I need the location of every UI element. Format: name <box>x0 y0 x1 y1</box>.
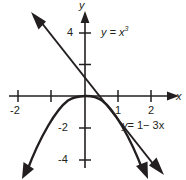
y-axis-label: y <box>79 0 85 11</box>
x-tick-label--2: -2 <box>10 105 20 116</box>
x-axis-label: x <box>176 91 182 102</box>
curve-x-cubed-end-arrowhead <box>136 162 148 180</box>
coordinate-plane-svg <box>0 0 186 179</box>
y-tick-label--2: -2 <box>58 122 68 133</box>
line-1-3x-path <box>41 22 154 165</box>
x-tick-label-1: 1 <box>115 105 121 116</box>
line-series-1-3x <box>41 22 154 165</box>
curve-x-cubed-start-arrowhead <box>22 162 34 179</box>
cubic-equation-label: y = x3 <box>101 25 128 38</box>
graph-figure: x y -2 1 2 4 -2 -4 y = x3 y= 1− 3x <box>0 0 186 179</box>
cubic-equation-text: y = x <box>101 26 125 38</box>
y-tick-label--4: -4 <box>58 154 68 165</box>
cubic-exponent: 3 <box>125 25 129 32</box>
line-equation-rhs: = 1− 3x <box>128 119 165 131</box>
y-axis-arrowhead <box>81 11 90 23</box>
x-tick-label-2: 2 <box>148 105 154 116</box>
line-equation-label: y= 1− 3x <box>122 120 164 131</box>
y-tick-label-4: 4 <box>67 27 73 38</box>
